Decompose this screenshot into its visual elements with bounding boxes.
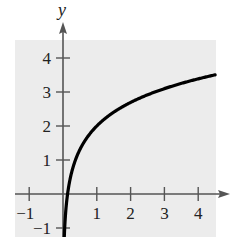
x-tick-label: 1 — [93, 204, 102, 223]
x-tick-label: −1 — [16, 204, 34, 223]
chart: −11234−11234 y — [0, 0, 235, 237]
y-axis-title: y — [56, 0, 66, 20]
plot-background — [15, 40, 216, 237]
y-tick-label: 3 — [43, 83, 52, 102]
y-tick-label: 1 — [43, 151, 52, 170]
x-tick-label: 3 — [160, 204, 169, 223]
x-tick-label: 4 — [194, 204, 203, 223]
x-tick-label: 2 — [126, 204, 135, 223]
y-tick-label: −1 — [33, 219, 51, 237]
y-tick-label: 2 — [43, 117, 52, 136]
y-tick-label: 4 — [43, 49, 52, 68]
